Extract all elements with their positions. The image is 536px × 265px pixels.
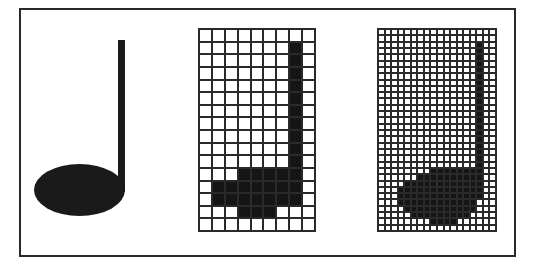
grid-cell [263,42,276,55]
grid-cell [238,168,251,181]
grid-cell [238,130,251,143]
grid-cell [302,218,315,231]
grid-cell [212,42,225,55]
grid-cell [212,181,225,194]
grid-cell [251,206,264,219]
grid-cell [225,143,238,156]
grid-cell [276,193,289,206]
grid-cell [302,42,315,55]
grid-cell [199,218,212,231]
grid-cell [251,168,264,181]
grid-cell [225,206,238,219]
grid-cell [251,42,264,55]
grid-cell [212,92,225,105]
fine-raster-grid [377,28,497,232]
grid-cell [212,117,225,130]
grid-cell [263,155,276,168]
grid-cell [199,206,212,219]
grid-cell [302,155,315,168]
grid-cell [263,105,276,118]
grid-cell [289,206,302,219]
grid-cell [276,143,289,156]
grid-cell [251,92,264,105]
grid-cell [289,130,302,143]
coarse-raster-grid [198,28,316,232]
grid-cell [263,67,276,80]
grid-cell [289,67,302,80]
grid-cell [225,193,238,206]
grid-cell [251,80,264,93]
grid-cell [289,193,302,206]
grid-cell [263,181,276,194]
grid-cell [199,42,212,55]
grid-cell [289,181,302,194]
grid-cell [238,206,251,219]
grid-cell [212,80,225,93]
grid-cell [251,155,264,168]
grid-cell [225,155,238,168]
grid-cell [302,80,315,93]
grid-cell [263,117,276,130]
grid-cell [489,225,496,231]
grid-cell [289,143,302,156]
grid-cell [289,105,302,118]
grid-cell [199,54,212,67]
grid-cell [238,54,251,67]
grid-cell [302,92,315,105]
grid-cell [276,181,289,194]
grid-cell [212,218,225,231]
grid-cell [276,54,289,67]
grid-cell [251,218,264,231]
grid-cell [251,130,264,143]
note-head [34,164,125,216]
grid-cell [212,206,225,219]
grid-cell [225,130,238,143]
grid-cell [225,80,238,93]
grid-cell [251,67,264,80]
grid-cell [238,42,251,55]
grid-cell [289,168,302,181]
grid-cell [276,206,289,219]
grid-cell [289,117,302,130]
grid-cell [302,206,315,219]
grid-cell [199,67,212,80]
grid-cell [238,155,251,168]
grid-cell [238,143,251,156]
grid-cell [276,67,289,80]
grid-cell [199,80,212,93]
grid-cell [199,193,212,206]
grid-cell [289,218,302,231]
grid-cell [238,181,251,194]
grid-cell [289,42,302,55]
grid-cell [276,29,289,42]
grid-cell [238,67,251,80]
grid-cell [302,105,315,118]
grid-cell [263,29,276,42]
grid-cell [302,130,315,143]
note-stem [118,40,125,192]
grid-cell [199,130,212,143]
grid-cell [199,143,212,156]
grid-cell [276,218,289,231]
grid-cell [238,80,251,93]
grid-cell [276,168,289,181]
grid-cell [199,155,212,168]
grid-cell [263,54,276,67]
grid-cell [289,29,302,42]
grid-cell [276,117,289,130]
grid-cell [238,117,251,130]
grid-cell [212,67,225,80]
grid-cell [276,42,289,55]
grid-cell [263,206,276,219]
grid-cell [238,193,251,206]
grid-cell [238,105,251,118]
grid-cell [263,143,276,156]
grid-cell [225,67,238,80]
grid-cell [263,168,276,181]
grid-cell [225,42,238,55]
grid-cell [212,105,225,118]
grid-cell [289,80,302,93]
grid-cell [238,218,251,231]
grid-cell [225,168,238,181]
grid-cell [251,181,264,194]
